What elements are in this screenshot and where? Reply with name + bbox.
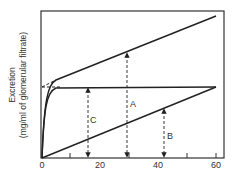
plot-frame (41, 11, 224, 158)
x-tick-0: 0 (39, 160, 44, 170)
filtration-line (42, 87, 216, 158)
plot-area (0, 0, 237, 181)
y-label-line2: (mg/ml of glomerular filtrate) (18, 15, 29, 155)
x-ticks (70, 153, 216, 158)
y-label-line1: Excretion (7, 15, 18, 155)
label-c: C (90, 115, 97, 125)
chart: Excretion (mg/ml of glomerular filtrate)… (0, 0, 237, 181)
x-tick-60: 60 (211, 160, 221, 170)
x-tick-20: 20 (95, 160, 105, 170)
x-tick-40: 40 (153, 160, 163, 170)
y-axis-label: Excretion (mg/ml of glomerular filtrate) (7, 15, 29, 155)
label-b: B (167, 131, 173, 141)
label-a: A (130, 99, 136, 109)
